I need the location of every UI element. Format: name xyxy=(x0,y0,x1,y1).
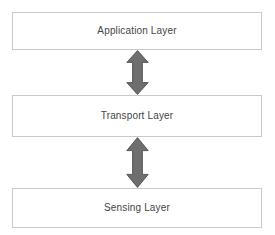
double-headed-vertical-arrow-icon-application-transport xyxy=(126,50,149,95)
layered-architecture-diagram: Application Layer Transport Layer Sensin… xyxy=(0,0,275,235)
double-headed-vertical-arrow-icon-transport-sensing xyxy=(126,137,149,188)
layer-box-sensing[interactable]: Sensing Layer xyxy=(12,188,262,228)
layer-label-sensing: Sensing Layer xyxy=(104,202,170,214)
layer-label-application: Application Layer xyxy=(97,25,176,37)
layer-box-application[interactable]: Application Layer xyxy=(12,12,262,50)
layer-label-transport: Transport Layer xyxy=(101,110,173,122)
layer-box-transport[interactable]: Transport Layer xyxy=(12,95,262,137)
